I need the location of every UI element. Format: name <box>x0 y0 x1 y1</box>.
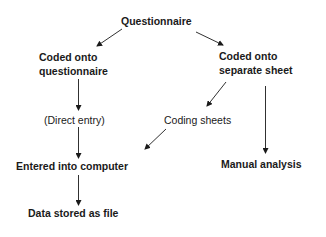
node-label: (Direct entry) <box>44 114 105 126</box>
node-questionnaire: Questionnaire <box>121 14 192 28</box>
node-label: Questionnaire <box>121 15 192 27</box>
node-label-line-2: separate sheet <box>219 63 293 77</box>
node-coded-onto-questionnaire: Coded onto questionnaire <box>39 50 108 78</box>
node-coded-onto-separate-sheet: Coded onto separate sheet <box>219 49 293 77</box>
edge-coding-sheets-to-entered-into-computer <box>145 129 166 149</box>
edge-separate-sheet-to-coding-sheets <box>207 82 226 106</box>
node-label: Data stored as file <box>28 207 118 219</box>
node-label-line-2: questionnaire <box>39 64 108 78</box>
node-label: Entered into computer <box>16 160 128 172</box>
node-coding-sheets: Coding sheets <box>164 113 231 127</box>
node-label: Coding sheets <box>164 114 231 126</box>
node-label-line-1: Coded onto <box>219 49 293 63</box>
node-entered-into-computer: Entered into computer <box>16 159 128 173</box>
node-data-stored-as-file: Data stored as file <box>28 206 118 220</box>
node-label: Manual analysis <box>221 158 302 170</box>
edge-questionnaire-to-coded-onto-questionnaire <box>97 29 122 46</box>
node-manual-analysis: Manual analysis <box>221 157 302 171</box>
edge-questionnaire-to-coded-onto-separate-sheet <box>196 32 223 45</box>
node-direct-entry: (Direct entry) <box>44 113 105 127</box>
node-label-line-1: Coded onto <box>39 50 108 64</box>
